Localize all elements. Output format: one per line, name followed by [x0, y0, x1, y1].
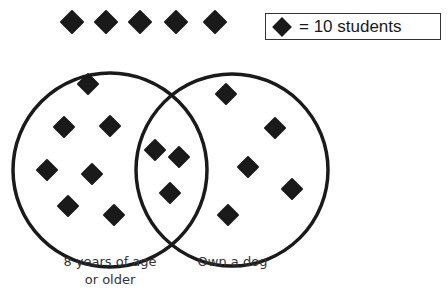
diamond-icon: [58, 196, 78, 216]
diamond-icon: [238, 157, 258, 177]
diamond-icon: [145, 140, 165, 160]
diamond-icon: [204, 11, 226, 33]
diamond-icon: [216, 84, 236, 104]
diamond-icon: [160, 183, 180, 203]
diamond-icon: [54, 117, 74, 137]
diamond-icon: [272, 17, 292, 37]
right-set-label: Own a dog: [180, 253, 285, 271]
diamond-icon: [169, 147, 189, 167]
diamond-icon: [265, 118, 285, 138]
diamond-icon: [82, 164, 102, 184]
diamond-icon: [218, 205, 238, 225]
legend-text: = 10 students: [299, 17, 402, 37]
legend: = 10 students: [265, 13, 441, 40]
venn-diagram: [0, 0, 448, 293]
diamond-symbols: [37, 11, 302, 225]
left-label-line1: 8 years of age: [50, 253, 170, 271]
diamond-icon: [104, 205, 124, 225]
diamond-icon: [61, 11, 83, 33]
left-label-line2: or older: [50, 271, 170, 289]
diamond-icon: [100, 116, 120, 136]
diamond-icon: [129, 11, 151, 33]
diamond-icon: [282, 179, 302, 199]
left-set-label: 8 years of age or older: [50, 253, 170, 289]
right-circle: [136, 74, 328, 266]
diamond-icon: [95, 11, 117, 33]
diamond-icon: [165, 11, 187, 33]
diamond-icon: [37, 160, 57, 180]
